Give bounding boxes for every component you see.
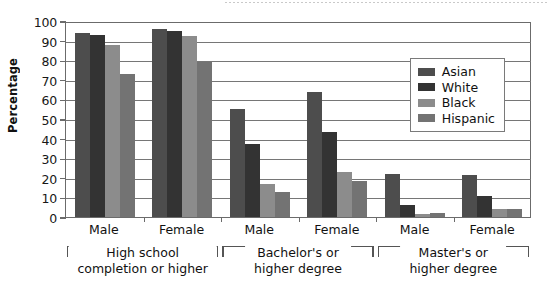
bracket-label: Master's orhigher degree — [400, 245, 506, 276]
bar-asian-0 — [75, 33, 90, 217]
y-tick-label-80: 80 — [41, 54, 57, 69]
y-tick-label-40: 40 — [41, 132, 57, 147]
bar-black-0 — [105, 45, 120, 217]
bracket-tick-right — [217, 246, 218, 257]
y-tick-label-0: 0 — [49, 211, 57, 226]
y-tick-label-100: 100 — [34, 15, 57, 30]
bar-hispanic-0 — [120, 74, 135, 217]
legend-item-black[interactable]: Black — [418, 95, 495, 111]
legend-label: Black — [442, 95, 476, 110]
bar-group — [144, 22, 222, 217]
chart-figure: Percentage 0102030405060708090100 AsianW… — [0, 0, 548, 305]
bar-white-3 — [322, 132, 337, 217]
bar-white-0 — [90, 35, 105, 217]
bracket-label-line1: Master's or — [409, 245, 497, 261]
bracket-tick-right — [528, 246, 529, 257]
bracket-tick-left — [222, 246, 223, 257]
bar-white-1 — [167, 31, 182, 217]
y-tick-label-10: 10 — [41, 191, 57, 206]
bar-hispanic-4 — [430, 213, 445, 217]
bar-group — [221, 22, 299, 217]
y-tick-label-20: 20 — [41, 171, 57, 186]
plot-area: 0102030405060708090100 AsianWhiteBlackHi… — [65, 22, 531, 218]
bar-hispanic-5 — [507, 209, 522, 217]
x-axis-label-1: Female — [143, 222, 221, 240]
y-tick-0 — [60, 217, 66, 218]
legend-label: White — [442, 80, 478, 95]
bracket-label-line1: High school — [77, 245, 208, 261]
bar-white-5 — [477, 196, 492, 217]
bar-black-2 — [260, 184, 275, 217]
x-axis-label-4: Male — [376, 222, 454, 240]
y-tick-label-30: 30 — [41, 152, 57, 167]
bar-group — [299, 22, 377, 217]
bracket-label: Bachelor's orhigher degree — [245, 245, 351, 276]
x-axis-label-2: Male — [220, 222, 298, 240]
bar-black-5 — [492, 209, 507, 217]
legend-item-white[interactable]: White — [418, 80, 495, 96]
y-tick-label-60: 60 — [41, 93, 57, 108]
bracket-group-1: Bachelor's orhigher degree — [220, 246, 375, 302]
legend-item-hispanic[interactable]: Hispanic — [418, 111, 495, 127]
bracket-label-line2: completion or higher — [77, 261, 208, 277]
bar-black-4 — [415, 214, 430, 217]
bar-asian-4 — [385, 174, 400, 217]
bar-asian-5 — [462, 175, 477, 217]
legend-swatch-hispanic — [418, 114, 435, 122]
bar-group — [66, 22, 144, 217]
legend-swatch-asian — [418, 68, 435, 76]
bar-black-3 — [337, 172, 352, 217]
x-axis-label-3: Female — [298, 222, 376, 240]
bar-asian-2 — [230, 109, 245, 217]
bracket-group-0: High schoolcompletion or higher — [65, 246, 220, 302]
y-tick-label-90: 90 — [41, 34, 57, 49]
bar-hispanic-2 — [275, 192, 290, 217]
bar-hispanic-3 — [352, 181, 367, 217]
x-axis-label-5: Female — [453, 222, 531, 240]
bracket-tick-left — [378, 246, 379, 257]
x-axis-labels: MaleFemaleMaleFemaleMaleFemale — [65, 222, 531, 240]
bar-white-2 — [245, 144, 260, 217]
legend-item-asian[interactable]: Asian — [418, 64, 495, 80]
legend-label: Hispanic — [442, 111, 495, 126]
y-tick-label-50: 50 — [41, 113, 57, 128]
legend-swatch-white — [418, 83, 435, 91]
page-top-rule — [225, 2, 548, 3]
legend-swatch-black — [418, 99, 435, 107]
bar-asian-3 — [307, 92, 322, 217]
chart-legend: AsianWhiteBlackHispanic — [410, 58, 505, 132]
bar-black-1 — [182, 36, 197, 217]
bar-hispanic-1 — [197, 62, 212, 217]
category-brackets: High schoolcompletion or higherBachelor'… — [65, 246, 531, 302]
bracket-label: High schoolcompletion or higher — [68, 245, 217, 276]
bracket-group-2: Master's orhigher degree — [376, 246, 531, 302]
bar-white-4 — [400, 205, 415, 217]
bracket-label-line2: higher degree — [409, 261, 497, 277]
bracket-label-line1: Bachelor's or — [254, 245, 342, 261]
bracket-tick-right — [372, 246, 373, 257]
x-axis-label-0: Male — [65, 222, 143, 240]
legend-label: Asian — [442, 64, 476, 79]
bracket-label-line2: higher degree — [254, 261, 342, 277]
y-axis-title: Percentage — [6, 58, 24, 133]
y-tick-label-70: 70 — [41, 73, 57, 88]
bar-asian-1 — [152, 29, 167, 217]
